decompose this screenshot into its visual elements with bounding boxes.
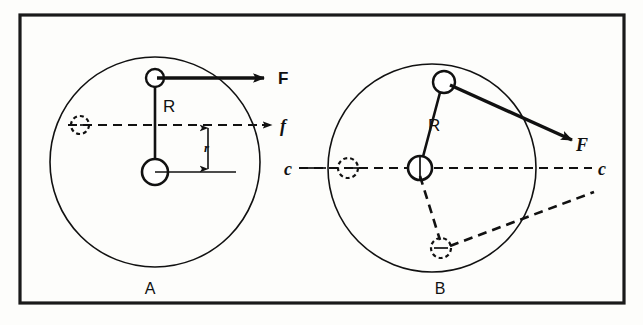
panel-a-caption: A	[145, 280, 156, 297]
mechanics-diagram-svg: R F f r A	[0, 0, 643, 325]
panel-b-force-label: F	[575, 135, 588, 155]
panel-b-group: R F c c B	[284, 64, 606, 297]
figure-frame	[20, 15, 624, 303]
panel-b-crank-pin	[433, 71, 455, 93]
panel-b-radius-label: R	[428, 116, 440, 135]
panel-b-ghost-force-line	[450, 192, 594, 246]
panel-b-force-arrow	[450, 85, 572, 140]
panel-b-ghost-radius-line	[420, 176, 440, 240]
panel-a-friction-label: f	[280, 116, 288, 136]
figure-container: R F f r A	[0, 0, 643, 325]
panel-b-center-label-left: c	[284, 159, 292, 179]
panel-a-force-label: F	[278, 69, 288, 88]
panel-b-center-label-right: c	[598, 159, 606, 179]
panel-b-caption: B	[435, 280, 446, 297]
panel-a-group: R F f r A	[50, 57, 288, 297]
panel-a-offset-label: r	[204, 140, 210, 155]
panel-a-radius-label: R	[163, 97, 175, 116]
